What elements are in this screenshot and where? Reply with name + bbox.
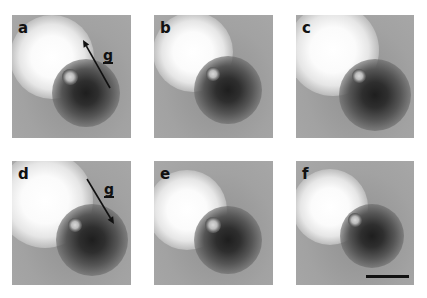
panel-d: d g <box>12 161 131 285</box>
defect-core <box>206 67 220 81</box>
defect-core <box>205 217 221 233</box>
panel-b: b <box>154 15 273 138</box>
scale-bar <box>366 275 409 278</box>
dark-contrast-lobe <box>194 56 262 124</box>
panel-a: a g <box>12 15 131 138</box>
panel-label: b <box>160 21 171 36</box>
panel-label: c <box>302 21 311 36</box>
g-vector-arrow-icon <box>12 161 131 285</box>
g-vector-arrow-icon <box>12 15 131 138</box>
panel-f: f <box>296 161 414 285</box>
micrograph-figure: a g b c d g e f <box>0 0 427 298</box>
defect-core <box>348 213 362 227</box>
panel-label: f <box>302 167 309 182</box>
panel-label: e <box>160 167 170 182</box>
g-vector-label: g <box>104 182 114 198</box>
panel-c: c <box>296 15 414 138</box>
defect-core <box>352 69 366 83</box>
dark-contrast-lobe <box>194 206 262 274</box>
panel-e: e <box>154 161 273 285</box>
g-vector-label: g <box>103 48 113 64</box>
dark-contrast-lobe <box>339 59 411 131</box>
